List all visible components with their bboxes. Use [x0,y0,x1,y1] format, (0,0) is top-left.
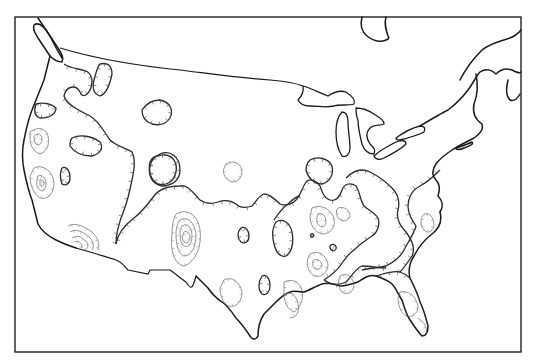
contour-map [0,0,540,362]
map-frame [15,17,521,352]
